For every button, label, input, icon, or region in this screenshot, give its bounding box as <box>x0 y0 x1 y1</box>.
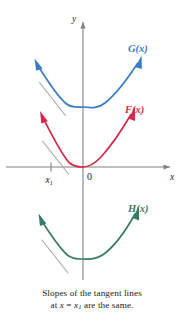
parabola-plot: y x 0 x1 G(x) F(x) H(x) <box>0 0 184 320</box>
origin-label: 0 <box>87 171 92 182</box>
tangent-line-h <box>42 240 68 273</box>
caption-line-1: Slopes of the tangent lines <box>0 288 184 300</box>
axes-group <box>6 22 170 280</box>
figure-caption: Slopes of the tangent lines at x = x1 ar… <box>0 288 184 313</box>
curve-g-arrowhead-left <box>35 59 43 71</box>
caption-line-2-prefix: at <box>51 300 60 310</box>
curve-g-path <box>39 64 138 108</box>
figure-container: y x 0 x1 G(x) F(x) H(x) <box>0 0 184 320</box>
curve-f-arrowhead-left <box>40 111 48 124</box>
curve-h-group <box>39 207 140 274</box>
curve-label-g: G(x) <box>128 43 148 55</box>
x1-tick-label-subscript: 1 <box>50 179 53 186</box>
x-axis-arrowhead <box>164 164 171 169</box>
caption-equals: = <box>64 300 74 310</box>
x-axis-label: x <box>169 172 175 182</box>
y-axis-arrowhead <box>80 22 85 29</box>
x1-tick-label: x1 <box>45 175 53 186</box>
y-axis-label: y <box>71 14 77 24</box>
curve-h-arrowhead-left <box>39 214 47 226</box>
curve-g-arrowhead-right <box>135 56 142 69</box>
curve-f-group <box>40 107 135 174</box>
caption-line-2-suffix: are the same. <box>82 300 134 310</box>
caption-line-2: at x = x1 are the same. <box>0 300 184 313</box>
curve-h-path <box>42 214 135 259</box>
curve-label-h: H(x) <box>127 203 148 215</box>
curve-label-f: F(x) <box>124 104 144 116</box>
